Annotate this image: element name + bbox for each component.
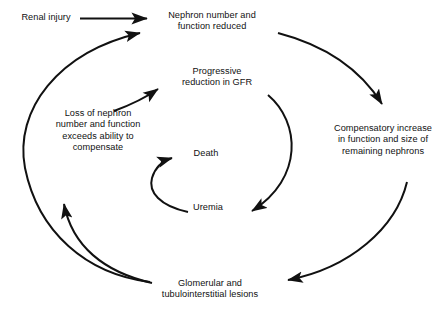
node-glomerular-lesions: Glomerular and tubulointerstitial lesion… [143,278,277,301]
edge-progressive-to-uremia [252,95,292,211]
edge-compensatory-to-glomerular [288,182,407,280]
node-death: Death [182,148,230,159]
node-loss-of-nephron: Loss of nephron number and function exce… [44,108,152,154]
node-progressive-reduction-gfr: Progressive reduction in GFR [163,66,271,89]
edge-glomerular-to-nephron [23,33,150,282]
node-renal-injury: Renal injury [8,12,84,23]
renal-injury-cycle-diagram: Renal injury Nephron number and function… [0,0,444,309]
node-compensatory-increase: Compensatory increase in function and si… [324,123,442,157]
node-uremia: Uremia [182,202,234,213]
edge-nephron-to-compensatory [278,33,382,104]
node-nephron-number: Nephron number and function reduced [150,10,274,33]
